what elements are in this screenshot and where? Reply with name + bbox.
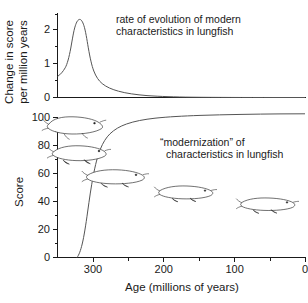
lungfish-specimen-1: [42, 117, 106, 140]
score-annotation-line1: “modernization” of: [160, 136, 245, 148]
score-ytick-label-0: 0: [44, 251, 50, 263]
score-xtick-label-0: 0: [302, 263, 308, 275]
score-annotation-line2: characteristics in lungfish: [166, 148, 283, 160]
score-ytick-label-20: 20: [38, 223, 50, 235]
score-xlabel: Age (millions of years): [125, 281, 239, 293]
score-ytick-label-100: 100: [32, 111, 50, 123]
lungfish-evolution-figure: Change in score per million years 0 1 2 …: [0, 0, 308, 303]
score-ytick-label-60: 60: [38, 167, 50, 179]
score-xtick-label-100: 100: [225, 263, 243, 275]
rate-ylabel-line2: per million years: [17, 20, 29, 104]
score-ylabel: Score: [13, 177, 25, 207]
rate-ytick-label-2: 2: [44, 23, 50, 35]
score-panel: Score 0 20 40 60 80 100: [13, 111, 308, 293]
score-ytick-label-40: 40: [38, 195, 50, 207]
figure-canvas: Change in score per million years 0 1 2 …: [0, 0, 308, 303]
score-ytick-label-80: 80: [38, 139, 50, 151]
rate-ylabel-line1: Change in score: [3, 20, 15, 104]
score-xtick-label-300: 300: [84, 263, 102, 275]
lungfish-specimen-4: [154, 186, 217, 202]
lungfish-specimen-2: [47, 146, 111, 164]
rate-annotation-line2: characteristics in lungfish: [116, 25, 233, 37]
rate-annotation-line1: rate of evolution of modern: [116, 13, 241, 25]
rate-ytick-label-1: 1: [44, 57, 50, 69]
rate-ytick-label-0: 0: [44, 91, 50, 103]
lungfish-specimen-5: [236, 198, 299, 213]
score-xtick-label-200: 200: [155, 263, 173, 275]
